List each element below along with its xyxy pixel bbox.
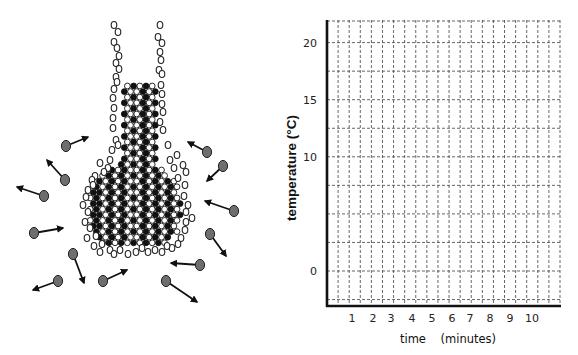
lattice-particle (118, 184, 124, 190)
lattice-particle (125, 173, 131, 179)
y-axis-title: temperature (°C) (284, 115, 299, 221)
lattice-particle (131, 173, 137, 179)
lattice-particle (131, 240, 137, 246)
lattice-particle (97, 178, 103, 184)
x-tick-label: 2 (370, 312, 377, 325)
lattice-particle (125, 240, 131, 246)
lattice-particle (162, 229, 168, 235)
lattice-particle (106, 195, 112, 201)
x-tick-label: 10 (525, 312, 539, 325)
lattice-particle (103, 178, 109, 184)
lattice-particle (131, 206, 137, 212)
lattice-particle (106, 240, 112, 246)
liquid-particle (84, 235, 90, 242)
liquid-particle (93, 233, 99, 240)
lattice-particle (152, 223, 158, 229)
lattice-particle (137, 184, 143, 190)
liquid-particle (158, 82, 164, 89)
lattice-particle (165, 212, 171, 218)
lattice-particle (140, 134, 146, 140)
lattice-particle (168, 184, 174, 190)
lattice-particle (143, 139, 149, 145)
lattice-particle (149, 173, 155, 179)
liquid-particle (160, 109, 166, 116)
gas-particle (195, 259, 204, 270)
lattice-particle (125, 206, 131, 212)
gas-molecule (17, 187, 49, 202)
lattice-particle (131, 106, 137, 112)
liquid-particle (82, 219, 88, 226)
lattice-particle (131, 83, 137, 89)
liquid-particle (110, 125, 116, 132)
lattice-particle (140, 234, 146, 240)
gas-particle (60, 174, 69, 185)
lattice-particle (137, 162, 143, 168)
lattice-particle (106, 229, 112, 235)
lattice-particle (140, 201, 146, 207)
x-tick-label: 7 (467, 312, 474, 325)
lattice-particle (143, 184, 149, 190)
lattice-particle (174, 184, 180, 190)
lattice-particle (152, 178, 158, 184)
lattice-particle (125, 106, 131, 112)
lattice-particle (106, 218, 112, 224)
liquid-particle (160, 127, 166, 134)
x-axis-title: time (minutes) (400, 332, 496, 346)
lattice-particle (143, 162, 149, 168)
liquid-particle (159, 71, 165, 78)
liquid-particle (158, 57, 164, 64)
lattice-particle (140, 145, 146, 151)
lattice-particle (156, 229, 162, 235)
lattice-particle (115, 178, 121, 184)
lattice-particle (174, 229, 180, 235)
lattice-particle (125, 195, 131, 201)
lattice-particle (97, 201, 103, 207)
lattice-particle (152, 89, 158, 95)
lattice-particle (140, 178, 146, 184)
lattice-particle (121, 212, 127, 218)
lattice-particle (125, 83, 131, 89)
lattice-particle (165, 190, 171, 196)
gas-particle (205, 228, 214, 239)
lattice-particle (143, 150, 149, 156)
lattice-particle (128, 156, 134, 162)
lattice-particle (146, 100, 152, 106)
lattice-particle (143, 229, 149, 235)
lattice-particle (121, 201, 127, 207)
lattice-particle (115, 201, 121, 207)
lattice-particle (159, 167, 165, 173)
x-tick-label: 1 (349, 312, 356, 325)
lattice-particle (128, 122, 134, 128)
lattice-particle (140, 156, 146, 162)
lattice-particle (137, 218, 143, 224)
lattice-particle (143, 173, 149, 179)
gas-particle (98, 275, 107, 286)
gas-particle (39, 190, 48, 201)
x-tick-label: 5 (429, 312, 436, 325)
lattice-particle (112, 218, 118, 224)
lattice-particle (149, 195, 155, 201)
lattice-particle (137, 139, 143, 145)
lattice-particle (171, 223, 177, 229)
lattice-particle (146, 178, 152, 184)
lattice-particle (177, 201, 183, 207)
lattice-particle (149, 128, 155, 134)
lattice-particle (128, 89, 134, 95)
lattice-particle (121, 134, 127, 140)
lattice-particle (159, 190, 165, 196)
liquid-particle (90, 182, 96, 189)
lattice-particle (121, 145, 127, 151)
lattice-particle (131, 128, 137, 134)
lattice-particle (125, 117, 131, 123)
lattice-particle (109, 223, 115, 229)
lattice-particle (97, 212, 103, 218)
lattice-particle (115, 234, 121, 240)
lattice-particle (152, 111, 158, 117)
liquid-particle (189, 215, 195, 222)
lattice-particle (149, 139, 155, 145)
gas-molecule (47, 160, 70, 186)
lattice-particle (168, 206, 174, 212)
lattice-particle (118, 195, 124, 201)
liquid-particle (183, 219, 189, 226)
lattice-particle (156, 218, 162, 224)
